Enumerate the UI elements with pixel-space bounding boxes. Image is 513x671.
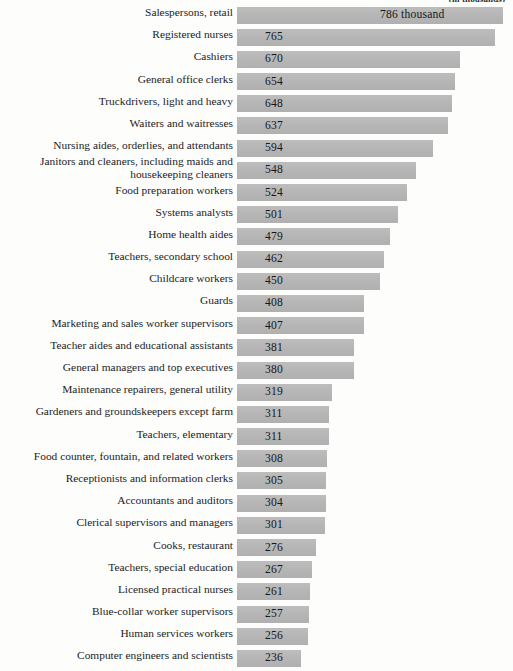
category-label: Teachers, secondary school [0, 250, 233, 263]
chart-row: Cashiers670 [0, 50, 513, 72]
chart-row: General office clerks654 [0, 73, 513, 95]
category-label: Teachers, elementary [0, 428, 233, 441]
bar-value-label: 319 [265, 385, 283, 398]
chart-row: Marketing and sales worker supervisors40… [0, 317, 513, 339]
chart-row: Accountants and auditors304 [0, 494, 513, 516]
bar-value-label: 594 [265, 141, 283, 154]
bar [237, 384, 332, 401]
category-label: Maintenance repairers, general utility [0, 383, 233, 396]
bar [237, 362, 354, 379]
bar-value-label: 524 [265, 186, 283, 199]
category-label: Marketing and sales worker supervisors [0, 317, 233, 330]
category-label: Truckdrivers, light and heavy [0, 95, 233, 108]
chart-row: Teachers, secondary school462 [0, 250, 513, 272]
bar-value-label: 236 [265, 651, 283, 664]
chart-row: Gardeners and groundskeepers except farm… [0, 405, 513, 427]
chart-row: Food preparation workers524 [0, 184, 513, 206]
category-label: Childcare workers [0, 272, 233, 285]
bar [237, 206, 398, 223]
chart-row: Guards408 [0, 294, 513, 316]
bar-value-label: 267 [265, 563, 283, 576]
chart-row: Teachers, special education267 [0, 561, 513, 583]
chart-row: Clerical supervisors and managers301 [0, 516, 513, 538]
category-label: Salespersons, retail [0, 6, 233, 19]
category-label: Nursing aides, orderlies, and attendants [0, 139, 233, 152]
bar-value-label: 276 [265, 541, 283, 554]
chart-title: (in thousands) [0, 0, 513, 2]
chart-rows: Salespersons, retail786 thousandRegister… [0, 6, 513, 671]
bar-value-label: 304 [265, 496, 283, 509]
chart-row: Maintenance repairers, general utility31… [0, 383, 513, 405]
bar-value-label: 408 [265, 296, 283, 309]
bar-value-label: 670 [265, 52, 283, 65]
category-label: Cashiers [0, 50, 233, 63]
chart-row: Waiters and waitresses637 [0, 117, 513, 139]
bar-value-label: 648 [265, 97, 283, 110]
bar [237, 228, 390, 245]
bar-value-label: 450 [265, 274, 283, 287]
chart-row: Licensed practical nurses261 [0, 583, 513, 605]
bar [237, 251, 384, 268]
category-label: Teacher aides and educational assistants [0, 339, 233, 352]
bar [237, 7, 503, 24]
bar-value-label: 765 [265, 30, 283, 43]
category-label: Systems analysts [0, 206, 233, 219]
category-label: Janitors and cleaners, including maids a… [0, 155, 233, 180]
bar-value-label: 407 [265, 319, 283, 332]
bar-value-label: 305 [265, 474, 283, 487]
category-label: Computer engineers and scientists [0, 649, 233, 662]
bar [237, 295, 364, 312]
chart-row: Receptionists and information clerks305 [0, 472, 513, 494]
bar [237, 184, 407, 201]
category-label: Receptionists and information clerks [0, 472, 233, 485]
category-label: Cooks, restaurant [0, 539, 233, 552]
category-label: Food preparation workers [0, 184, 233, 197]
category-label: Teachers, special education [0, 561, 233, 574]
chart-row: Truckdrivers, light and heavy648 [0, 95, 513, 117]
category-label: Clerical supervisors and managers [0, 516, 233, 529]
chart-row: Salespersons, retail786 thousand [0, 6, 513, 28]
chart-row: Teachers, elementary311 [0, 428, 513, 450]
bar-value-label: 311 [265, 407, 283, 420]
chart-row: Systems analysts501 [0, 206, 513, 228]
bar-value-label: 257 [265, 607, 283, 620]
bar [237, 162, 416, 179]
bar-value-label: 501 [265, 208, 283, 221]
category-label: Food counter, fountain, and related work… [0, 450, 233, 463]
chart-row: Blue-collar worker supervisors257 [0, 605, 513, 627]
category-label: Licensed practical nurses [0, 583, 233, 596]
chart-row: Food counter, fountain, and related work… [0, 450, 513, 472]
bar [237, 339, 354, 356]
category-label: Accountants and auditors [0, 494, 233, 507]
category-label: Gardeners and groundskeepers except farm [0, 405, 233, 418]
category-label: Waiters and waitresses [0, 117, 233, 130]
chart-row: Teacher aides and educational assistants… [0, 339, 513, 361]
category-label: Blue-collar worker supervisors [0, 605, 233, 618]
bar-value-label: 381 [265, 341, 283, 354]
bar-value-label: 654 [265, 75, 283, 88]
chart-row: Childcare workers450 [0, 272, 513, 294]
bar-value-label: 786 thousand [380, 8, 445, 21]
chart-row: Cooks, restaurant276 [0, 539, 513, 561]
category-label: Human services workers [0, 627, 233, 640]
category-label: General managers and top executives [0, 361, 233, 374]
bar-value-label: 301 [265, 518, 283, 531]
bar-value-label: 261 [265, 585, 283, 598]
bar-value-label: 311 [265, 430, 283, 443]
bar-value-label: 548 [265, 163, 283, 176]
bar [237, 273, 380, 290]
bar [237, 317, 364, 334]
category-label: General office clerks [0, 73, 233, 86]
bar-value-label: 380 [265, 363, 283, 376]
chart-row: Janitors and cleaners, including maids a… [0, 161, 513, 183]
bar-value-label: 462 [265, 252, 283, 265]
category-label: Registered nurses [0, 28, 233, 41]
chart-row: General managers and top executives380 [0, 361, 513, 383]
bar-value-label: 637 [265, 119, 283, 132]
chart-row: Home health aides479 [0, 228, 513, 250]
chart-row: Human services workers256 [0, 627, 513, 649]
category-label: Guards [0, 294, 233, 307]
bar-value-label: 308 [265, 452, 283, 465]
chart-row: Registered nurses765 [0, 28, 513, 50]
